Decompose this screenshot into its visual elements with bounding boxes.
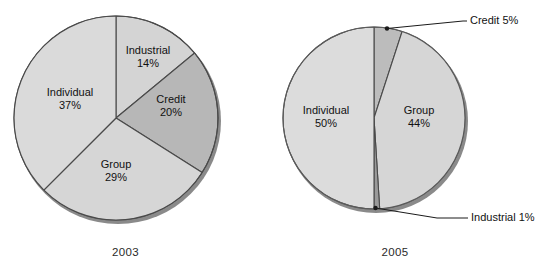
pie-2005-callout-industrial-label: Industrial 1% [471,211,535,224]
label-text: Credit [156,93,185,105]
label-pct: 44% [388,117,450,130]
label-pct: 14% [112,57,184,70]
label-pct: 50% [284,117,368,130]
label-text: Individual [303,104,349,116]
pie-2003-label-credit: Credit 20% [140,93,202,119]
pie-2005-label-individual: Individual 50% [284,104,368,130]
pie-2005-callout-credit-label: Credit 5% [470,14,518,27]
pie-2003-label-group: Group 29% [85,158,147,184]
label-text: Industrial [126,44,171,56]
pie-2005-label-group: Group 44% [388,104,450,130]
pie-2005-callout-credit-leader [387,21,467,29]
pie-chart-2003: Industrial 14% Credit 20% Group 29% Indi… [0,0,267,275]
pie-chart-2005: Individual 50% Group 44% Credit 5% Indus… [267,0,535,275]
pie-2003-label-industrial: Industrial 14% [112,44,184,70]
pie-chart-figure: Industrial 14% Credit 20% Group 29% Indi… [0,0,535,275]
label-text: Group [101,158,132,170]
pie-2005-year-caption: 2005 [261,246,529,258]
label-text: Individual [47,86,93,98]
label-pct: 37% [28,99,112,112]
pie-2003-label-individual: Individual 37% [28,86,112,112]
pie-2003-graphic [0,0,267,240]
pie-2003-year-caption: 2003 [0,246,259,258]
label-pct: 29% [85,171,147,184]
label-pct: 20% [140,106,202,119]
label-text: Group [404,104,435,116]
